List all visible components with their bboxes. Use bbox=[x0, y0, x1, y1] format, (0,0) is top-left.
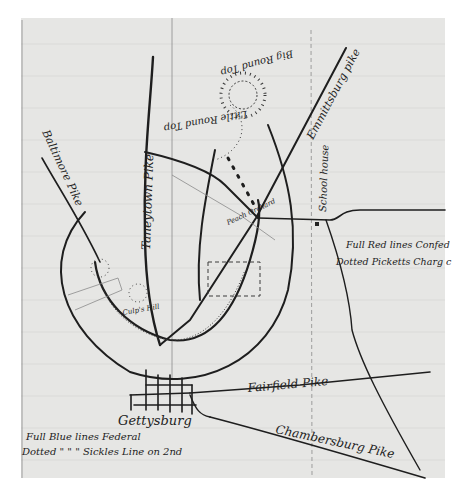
legend-confed-full: Full Red lines Confed bbox=[345, 239, 450, 250]
school-house-marker bbox=[315, 222, 319, 226]
legend-confed-dotted: Dotted Picketts Charg c bbox=[335, 256, 452, 267]
legend-federal-full: Full Blue lines Federal bbox=[25, 431, 141, 442]
battlefield-map: Baltimore Pike Taneytown Pike Emmittsbur… bbox=[0, 0, 468, 495]
label-school-house: School house bbox=[317, 144, 330, 212]
label-gettysburg: Gettysburg bbox=[118, 413, 192, 428]
legend-federal-dotted: Dotted " " " Sickles Line on 2nd bbox=[21, 446, 182, 457]
